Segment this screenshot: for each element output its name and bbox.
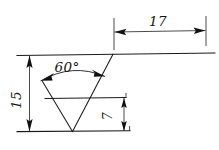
dimension-60deg-left-arrow-icon: [41, 73, 54, 81]
middle-edge-line: [45, 98, 126, 99]
dimension-7-label: 7: [100, 112, 115, 120]
top-edge-line: [17, 53, 215, 56]
dimension-17-label: 17: [149, 13, 167, 29]
dimension-15-label: 15: [8, 91, 24, 109]
dimension-60deg-label: 60°: [54, 59, 79, 75]
dimension-17-line: [115, 31, 206, 33]
object-geometry-group: [17, 53, 215, 132]
dimension-7-group: 7: [100, 93, 130, 131]
dimension-17-group: 17: [114, 13, 206, 50]
engineering-drawing-svg: 17 60° 15: [0, 0, 219, 150]
dimension-60deg-group: 60°: [41, 59, 106, 81]
technical-drawing-canvas: 17 60° 15: [0, 0, 219, 150]
vee-left-arm-line: [43, 82, 73, 132]
dimension-15-group: 15: [8, 55, 33, 131]
bottom-edge-line: [17, 131, 130, 132]
